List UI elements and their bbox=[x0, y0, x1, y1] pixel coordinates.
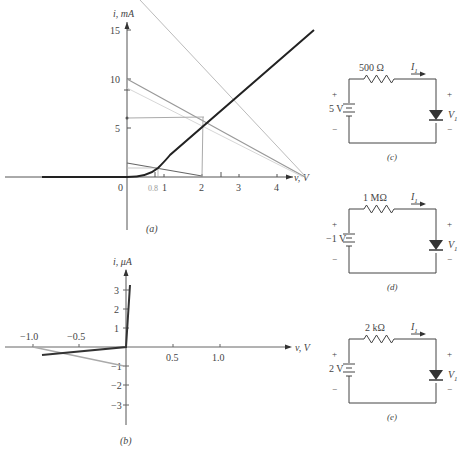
circuit-d: 1 MΩ I1 −1 V + − + − V1 (d) bbox=[326, 191, 458, 292]
resistor-label: 2 kΩ bbox=[365, 322, 385, 333]
svg-text:−: − bbox=[447, 384, 452, 394]
x-tick-1: 1 bbox=[162, 182, 167, 193]
current-label: I1 bbox=[410, 321, 418, 335]
x-tick-3: 3 bbox=[236, 182, 241, 193]
caption-b: (b) bbox=[120, 435, 132, 447]
y-axis-arrow-icon bbox=[124, 269, 129, 276]
x-tick-10: 1.0 bbox=[212, 352, 225, 363]
x-axis-arrow-icon bbox=[285, 345, 292, 350]
diode-icon bbox=[429, 110, 443, 120]
current-arrow-icon bbox=[420, 72, 426, 77]
y-tick-5: 5 bbox=[115, 123, 120, 134]
caption-e: (e) bbox=[387, 412, 397, 422]
current-label: I1 bbox=[410, 61, 418, 75]
plot-a: 0 1 2 3 4 5 10 15 0.8 i, mA v, V (a) bbox=[5, 0, 314, 235]
svg-text:−: − bbox=[332, 124, 337, 134]
diode-icon bbox=[429, 240, 443, 250]
resistor-label: 500 Ω bbox=[359, 62, 384, 73]
svg-text:+: + bbox=[447, 219, 452, 229]
voltage-label: V1 bbox=[448, 239, 458, 253]
current-arrow-icon bbox=[420, 202, 426, 207]
voltage-label: V1 bbox=[448, 109, 458, 123]
svg-text:−: − bbox=[447, 124, 452, 134]
source-label: 5 V bbox=[329, 103, 344, 114]
x-tick-0: 0 bbox=[118, 182, 123, 193]
load-line-faint bbox=[127, 88, 303, 177]
marker-label: 0.8 bbox=[148, 184, 158, 193]
circuit-e: 2 kΩ I1 2 V + − + − V1 (e) bbox=[329, 321, 458, 422]
source-label: 2 V bbox=[329, 363, 344, 374]
voltage-label: V1 bbox=[448, 369, 458, 383]
op-point-h-guide bbox=[127, 117, 204, 118]
svg-text:−: − bbox=[332, 254, 337, 264]
x-tick-4: 4 bbox=[274, 182, 279, 193]
caption-c: (c) bbox=[387, 152, 397, 162]
diode-curve bbox=[42, 30, 314, 177]
y-tick-neg3: −3 bbox=[111, 400, 122, 411]
y-tick-2: 2 bbox=[114, 304, 119, 315]
x-axis-arrow-icon bbox=[286, 175, 293, 180]
current-arrow-icon bbox=[420, 332, 426, 337]
x-tick-neg05: −0.5 bbox=[67, 331, 85, 342]
x-tick-05: 0.5 bbox=[166, 352, 179, 363]
x-tick-neg1: −1.0 bbox=[20, 331, 38, 342]
load-line-5v bbox=[127, 79, 305, 177]
plot-b: −1.0 −0.5 0.5 1.0 1 2 3 −1 −2 −3 i, μA v… bbox=[5, 256, 312, 447]
caption-d: (d) bbox=[387, 282, 398, 292]
y-tick-neg1: −1 bbox=[111, 361, 122, 372]
svg-text:−: − bbox=[447, 254, 452, 264]
x-tick-2: 2 bbox=[199, 182, 204, 193]
y-tick-3: 3 bbox=[114, 285, 119, 296]
svg-text:+: + bbox=[447, 349, 452, 359]
y-tick-10: 10 bbox=[110, 74, 120, 85]
y-tick-15: 15 bbox=[110, 25, 120, 36]
caption-a: (a) bbox=[146, 223, 158, 235]
svg-text:+: + bbox=[332, 219, 337, 229]
svg-text:+: + bbox=[332, 349, 337, 359]
y-axis-label: i, μA bbox=[113, 256, 133, 267]
svg-text:+: + bbox=[447, 89, 452, 99]
figure-canvas: 0 1 2 3 4 5 10 15 0.8 i, mA v, V (a) bbox=[0, 0, 458, 453]
op-point-marker bbox=[126, 117, 129, 120]
load-line-steep bbox=[140, 0, 306, 177]
svg-text:+: + bbox=[332, 89, 337, 99]
svg-text:−: − bbox=[332, 384, 337, 394]
current-label: I1 bbox=[410, 191, 418, 205]
y-axis-arrow-icon bbox=[125, 22, 130, 29]
y-tick-1: 1 bbox=[114, 323, 119, 334]
load-line-neg1v bbox=[33, 347, 124, 366]
source-label: −1 V bbox=[326, 233, 347, 244]
y-axis-label: i, mA bbox=[113, 8, 135, 19]
x-axis-label: v, V bbox=[295, 342, 312, 353]
circuit-c: 500 Ω I1 5 V + − + − V1 (c) bbox=[329, 61, 458, 162]
diode-icon bbox=[429, 370, 443, 380]
y-tick-neg2: −2 bbox=[111, 380, 122, 391]
resistor-label: 1 MΩ bbox=[363, 192, 387, 203]
